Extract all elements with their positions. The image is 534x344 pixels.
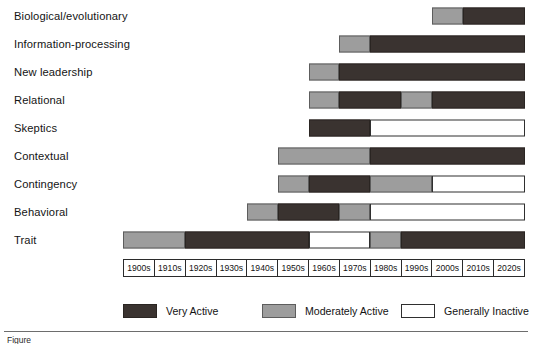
axis-tick-1940s: 1940s (247, 260, 278, 276)
bar-segment-inactive (309, 232, 371, 249)
timeline-row: New leadership (0, 58, 534, 86)
bar-track (123, 232, 525, 249)
axis-tick-1990s: 1990s (402, 260, 433, 276)
bar-segment-mod (247, 204, 278, 221)
bar-segment-very (309, 176, 371, 193)
timeline-row: Trait (0, 226, 534, 254)
figure-caption: Figure (7, 335, 31, 344)
axis-tick-1960s: 1960s (309, 260, 340, 276)
timeline-row: Skeptics (0, 114, 534, 142)
bar-segment-mod (339, 204, 370, 221)
bar-segment-mod (370, 232, 401, 249)
bar-segment-inactive (432, 176, 525, 193)
decade-axis: 1900s1910s1920s1930s1940s1950s1960s1970s… (123, 259, 525, 277)
bar-track (123, 204, 525, 221)
legend-label-generally-inactive: Generally Inactive (444, 305, 529, 317)
bar-track (123, 148, 525, 165)
timeline-row: Contextual (0, 142, 534, 170)
axis-tick-1910s: 1910s (155, 260, 186, 276)
bar-segment-mod (432, 8, 463, 25)
bar-segment-mod (278, 176, 309, 193)
legend-item-generally-inactive: Generally Inactive (401, 303, 529, 319)
bar-track (123, 8, 525, 25)
axis-tick-2010s: 2010s (463, 260, 494, 276)
axis-tick-1950s: 1950s (278, 260, 309, 276)
row-label-trait: Trait (14, 234, 36, 246)
bar-segment-very (370, 36, 525, 53)
bar-segment-mod (339, 36, 370, 53)
legend-swatch-very-active (123, 304, 157, 318)
bar-segment-mod (278, 148, 371, 165)
bar-segment-mod (370, 176, 432, 193)
bar-segment-very (401, 232, 525, 249)
bar-segment-very (339, 64, 525, 81)
timeline-row: Relational (0, 86, 534, 114)
axis-tick-2000s: 2000s (432, 260, 463, 276)
bar-segment-inactive (370, 120, 525, 137)
bar-segment-very (278, 204, 340, 221)
bar-track (123, 92, 525, 109)
timeline-row: Behavioral (0, 198, 534, 226)
bar-segment-very (463, 8, 525, 25)
bar-track (123, 64, 525, 81)
timeline-row: Biological/evolutionary (0, 2, 534, 30)
row-label-information-processing: Information-processing (14, 38, 130, 50)
bar-segment-very (309, 120, 371, 137)
row-label-contextual: Contextual (14, 150, 69, 162)
axis-tick-1920s: 1920s (186, 260, 217, 276)
bar-track (123, 120, 525, 137)
axis-tick-1970s: 1970s (340, 260, 371, 276)
bar-segment-mod (123, 232, 185, 249)
row-label-contingency: Contingency (14, 178, 77, 190)
bar-segment-inactive (370, 204, 525, 221)
legend-swatch-moderately-active (262, 304, 296, 318)
legend-item-moderately-active: Moderately Active (262, 303, 389, 319)
footer-divider (4, 331, 528, 332)
row-label-new-leadership: New leadership (14, 66, 93, 78)
row-label-relational: Relational (14, 94, 65, 106)
leadership-theory-timeline-chart: Biological/evolutionaryInformation-proce… (0, 0, 534, 344)
bar-segment-very (185, 232, 309, 249)
legend-swatch-generally-inactive (401, 304, 435, 318)
chart-legend: Very Active Moderately Active Generally … (123, 303, 525, 319)
axis-tick-1930s: 1930s (217, 260, 248, 276)
axis-tick-1980s: 1980s (371, 260, 402, 276)
legend-label-very-active: Very Active (166, 305, 218, 317)
bar-track (123, 36, 525, 53)
bar-track (123, 176, 525, 193)
timeline-row: Information-processing (0, 30, 534, 58)
bar-segment-very (339, 92, 401, 109)
axis-tick-1900s: 1900s (124, 260, 155, 276)
timeline-row: Contingency (0, 170, 534, 198)
legend-label-moderately-active: Moderately Active (305, 305, 389, 317)
bar-segment-very (432, 92, 525, 109)
row-label-skeptics: Skeptics (14, 122, 57, 134)
bar-segment-mod (309, 64, 340, 81)
bar-segment-very (370, 148, 525, 165)
bar-segment-mod (401, 92, 432, 109)
axis-tick-2020s: 2020s (494, 260, 524, 276)
row-label-behavioral: Behavioral (14, 206, 68, 218)
bar-segment-mod (309, 92, 340, 109)
legend-item-very-active: Very Active (123, 303, 218, 319)
row-label-biological-evolutionary: Biological/evolutionary (14, 10, 128, 22)
